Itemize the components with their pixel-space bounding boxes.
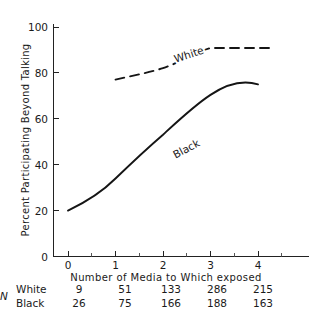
- x-axis-ticks: [68, 251, 258, 257]
- n-white-0: 9: [56, 283, 102, 297]
- series-label-black: Black: [171, 136, 203, 160]
- n-table: N White 9 51 133 286 215 Black 26 75 166…: [0, 283, 286, 311]
- svg-text:Black: Black: [171, 136, 203, 160]
- y-axis-ticks: [54, 27, 60, 257]
- sample-size-table: N White 9 51 133 286 215 Black 26 75 166…: [0, 283, 317, 315]
- y-tick-label: 40: [35, 159, 48, 171]
- series-label-white: White: [172, 44, 205, 65]
- y-tick-label: 60: [35, 113, 48, 125]
- figure-container: 0 20 40 60 80 100 0 1 2 3: [0, 0, 317, 320]
- n-white-2: 133: [148, 283, 194, 297]
- x-tick-label: 3: [207, 259, 214, 271]
- x-tick-label: 2: [160, 259, 167, 271]
- table-row: N White 9 51 133 286 215: [0, 283, 286, 297]
- x-axis-minor-ticks: [92, 253, 282, 257]
- series-line-black: [68, 83, 258, 211]
- x-tick-label: 1: [112, 259, 119, 271]
- n-marker: N: [0, 283, 16, 311]
- n-white-3: 286: [194, 283, 240, 297]
- y-tick-label: 80: [35, 67, 48, 79]
- n-black-1: 75: [102, 297, 148, 311]
- y-tick-label: 20: [35, 205, 48, 217]
- n-black-3: 188: [194, 297, 240, 311]
- n-black-2: 166: [148, 297, 194, 311]
- y-tick-label: 100: [28, 21, 48, 33]
- y-tick-label: 0: [41, 251, 48, 263]
- y-axis-title: Percent Participating Beyond Talking: [20, 44, 31, 237]
- n-white-4: 215: [240, 283, 286, 297]
- n-black-0: 26: [56, 297, 102, 311]
- svg-text:White: White: [172, 44, 205, 65]
- row-label-white: White: [16, 283, 56, 297]
- x-tick-label: 0: [65, 259, 72, 271]
- n-white-1: 51: [102, 283, 148, 297]
- x-tick-label: 4: [255, 259, 262, 271]
- table-row: Black 26 75 166 188 163: [0, 297, 286, 311]
- n-black-4: 163: [240, 297, 286, 311]
- x-axis-tick-labels: 0 1 2 3 4: [65, 259, 262, 271]
- line-chart: 0 20 40 60 80 100 0 1 2 3: [0, 0, 317, 320]
- x-axis-title: Number of Media to Which exposed: [70, 272, 262, 283]
- row-label-black: Black: [16, 297, 56, 311]
